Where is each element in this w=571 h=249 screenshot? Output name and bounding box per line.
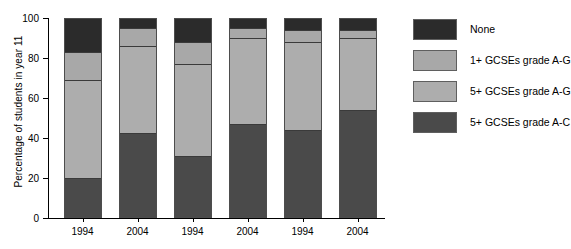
y-tick-mark xyxy=(43,98,48,99)
x-tick-mark xyxy=(193,218,194,222)
plot-area: 020406080100 199420041994200419942004 xyxy=(55,18,385,218)
bar-segment[interactable] xyxy=(229,124,267,218)
bar-segment[interactable] xyxy=(64,80,102,178)
bar-segment[interactable] xyxy=(64,18,102,52)
bar-segment[interactable] xyxy=(229,18,267,28)
legend-label: 1+ GCSEs grade A-G xyxy=(470,54,571,66)
bar-segment[interactable] xyxy=(174,156,212,218)
x-tick-mark xyxy=(358,218,359,222)
legend-swatch-icon xyxy=(413,50,457,71)
bar-segment[interactable] xyxy=(284,18,322,30)
bar-segment[interactable] xyxy=(119,28,157,46)
bar-segment[interactable] xyxy=(339,30,377,38)
bar-segment[interactable] xyxy=(284,42,322,130)
y-axis-line xyxy=(48,18,49,219)
bar-segment[interactable] xyxy=(119,133,157,218)
y-tick-label: 60 xyxy=(0,93,39,104)
legend-label: 5+ GCSEs grade A-G xyxy=(470,85,571,97)
legend-item[interactable]: 5+ GCSEs grade A-C xyxy=(413,111,570,133)
legend-label: 5+ GCSEs grade A-C xyxy=(470,116,570,128)
bar-segment[interactable] xyxy=(174,18,212,42)
y-tick-label: 20 xyxy=(0,173,39,184)
bar-segment[interactable] xyxy=(339,110,377,218)
bar[interactable] xyxy=(284,18,322,218)
y-tick-mark xyxy=(43,18,48,19)
legend-item[interactable]: 5+ GCSEs grade A-G xyxy=(413,80,571,102)
x-tick-mark xyxy=(138,218,139,222)
legend-item[interactable]: None xyxy=(413,18,495,40)
bar-segment[interactable] xyxy=(64,178,102,218)
y-tick-mark xyxy=(43,58,48,59)
bar[interactable] xyxy=(119,18,157,218)
bar-segment[interactable] xyxy=(229,38,267,124)
x-tick-label: 1994 xyxy=(291,226,313,237)
bar-segment[interactable] xyxy=(229,28,267,38)
legend-item[interactable]: 1+ GCSEs grade A-G xyxy=(413,49,571,71)
legend-swatch-icon xyxy=(413,112,457,133)
bar[interactable] xyxy=(174,18,212,218)
y-tick-mark xyxy=(43,138,48,139)
x-tick-label: 1994 xyxy=(71,226,93,237)
bar[interactable] xyxy=(229,18,267,218)
x-tick-label: 2004 xyxy=(346,226,368,237)
x-tick-label: 2004 xyxy=(236,226,258,237)
bar[interactable] xyxy=(339,18,377,218)
y-tick-label: 0 xyxy=(0,213,39,224)
bar-segment[interactable] xyxy=(284,130,322,218)
x-tick-mark xyxy=(83,218,84,222)
bar-segment[interactable] xyxy=(119,46,157,133)
bar-segment[interactable] xyxy=(174,64,212,156)
y-tick-mark xyxy=(43,178,48,179)
y-tick-label: 40 xyxy=(0,133,39,144)
bar[interactable] xyxy=(64,18,102,218)
x-tick-mark xyxy=(303,218,304,222)
x-tick-label: 1994 xyxy=(181,226,203,237)
bar-segment[interactable] xyxy=(119,18,157,28)
legend-swatch-icon xyxy=(413,19,457,40)
y-tick-mark xyxy=(43,218,48,219)
x-tick-mark xyxy=(248,218,249,222)
legend-label: None xyxy=(470,23,495,35)
legend-swatch-icon xyxy=(413,81,457,102)
y-tick-label: 100 xyxy=(0,13,39,24)
x-axis-line xyxy=(48,218,385,219)
bar-segment[interactable] xyxy=(64,52,102,80)
y-tick-label: 80 xyxy=(0,53,39,64)
x-tick-label: 2004 xyxy=(126,226,148,237)
bar-segment[interactable] xyxy=(284,30,322,42)
bar-segment[interactable] xyxy=(174,42,212,64)
bar-segment[interactable] xyxy=(339,18,377,30)
bar-segment[interactable] xyxy=(339,38,377,110)
